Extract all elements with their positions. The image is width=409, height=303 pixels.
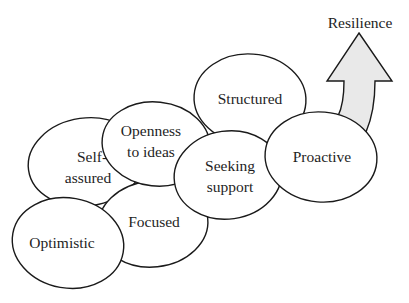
node-label-self-assured-line2: assured — [65, 169, 112, 186]
outcome-label-resilience: Resilience — [328, 14, 393, 31]
node-label-openness-line2: to ideas — [127, 143, 175, 160]
node-label-proactive: Proactive — [293, 148, 352, 165]
node-label-openness-line1: Openness — [121, 122, 181, 139]
node-label-seeking-support-line2: support — [207, 178, 254, 195]
node-label-optimistic: Optimistic — [29, 234, 95, 251]
resilience-diagram: Self- assured Focused Optimistic Structu… — [0, 0, 409, 303]
node-label-focused: Focused — [128, 213, 180, 230]
node-label-seeking-support-line1: Seeking — [205, 157, 255, 174]
node-label-structured: Structured — [218, 90, 283, 107]
